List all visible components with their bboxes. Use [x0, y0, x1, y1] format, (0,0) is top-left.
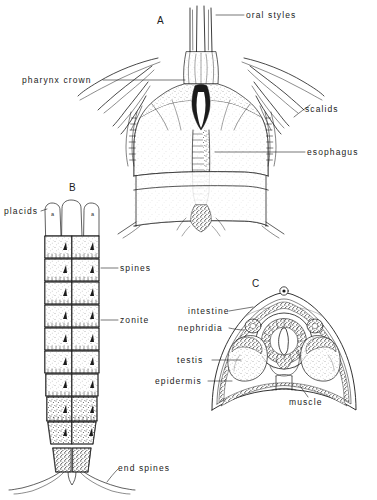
label-muscle: muscle	[289, 398, 323, 407]
label-oral-styles: oral styles	[246, 11, 296, 20]
figure-letter-a: A	[157, 16, 164, 26]
figure-c-drawing	[208, 287, 356, 410]
figure-letter-b: B	[69, 183, 76, 193]
label-epidermis: epidermis	[155, 377, 202, 386]
figure-letter-c: C	[252, 279, 260, 289]
label-placid-a-left: a	[51, 212, 54, 218]
oral-styles-group	[190, 6, 212, 52]
label-esophagus: esophagus	[307, 148, 359, 157]
anatomical-plate: A oral styles pharynx crown scalids esop…	[0, 0, 377, 500]
placids-group	[45, 200, 99, 236]
figure-b-drawing	[9, 200, 135, 494]
leader-intestine	[229, 307, 253, 311]
label-placids: placids	[4, 207, 38, 216]
label-spines: spines	[120, 264, 151, 273]
label-placid-a-right: a	[91, 212, 94, 218]
label-intestine: intestine	[188, 307, 230, 316]
end-spines-group	[9, 472, 135, 494]
leader-end-spines	[107, 469, 118, 482]
label-testis: testis	[177, 356, 203, 365]
figure-a-drawing	[78, 6, 324, 238]
label-zonite: zonite	[120, 316, 149, 325]
label-nephridia: nephridia	[178, 324, 223, 333]
label-pharynx-crown: pharynx crown	[22, 76, 92, 85]
label-scalids: scalids	[305, 105, 339, 114]
label-end-spines: end spines	[118, 464, 170, 473]
